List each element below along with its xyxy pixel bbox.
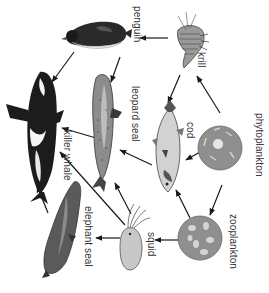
cod-illustration	[152, 100, 184, 192]
killer-whale-illustration	[6, 72, 64, 204]
label-krill: krill	[196, 52, 207, 68]
arrow-zooplankton-to-cod	[176, 190, 190, 218]
label-killer-whale: killer whale	[62, 130, 73, 181]
elephant-seal-illustration	[42, 182, 81, 278]
label-zooplankton: zooplankton	[228, 214, 239, 269]
arrow-penguin-to-leopard-seal	[111, 57, 120, 82]
label-leopard-seal: leopard seal	[130, 86, 141, 142]
arrow-squid-to-leopard-seal	[115, 183, 131, 214]
arrow-cod-to-leopard-seal	[120, 150, 152, 165]
penguin-illustration	[61, 22, 132, 49]
label-penguin: penguin	[132, 6, 143, 42]
phytoplankton-illustration	[198, 126, 242, 170]
label-cod: cod	[185, 122, 196, 138]
zooplankton-illustration	[178, 216, 222, 260]
food-web-diagram: penguin krill leopard seal killer whale …	[0, 0, 269, 293]
arrow-phytoplankton-to-cod	[186, 152, 200, 160]
arrow-phytoplankton-to-krill	[197, 76, 220, 113]
arrow-penguin-to-killer-whale	[52, 52, 74, 82]
arrow-krill-to-cod	[168, 75, 180, 103]
label-elephant-seal: elephant seal	[83, 206, 94, 267]
leopard-seal-illustration	[92, 75, 122, 192]
label-phytoplankton: phytoplankton	[254, 113, 265, 177]
label-squid: squid	[146, 232, 157, 256]
arrow-phytoplankton-to-zooplankton	[210, 185, 222, 215]
